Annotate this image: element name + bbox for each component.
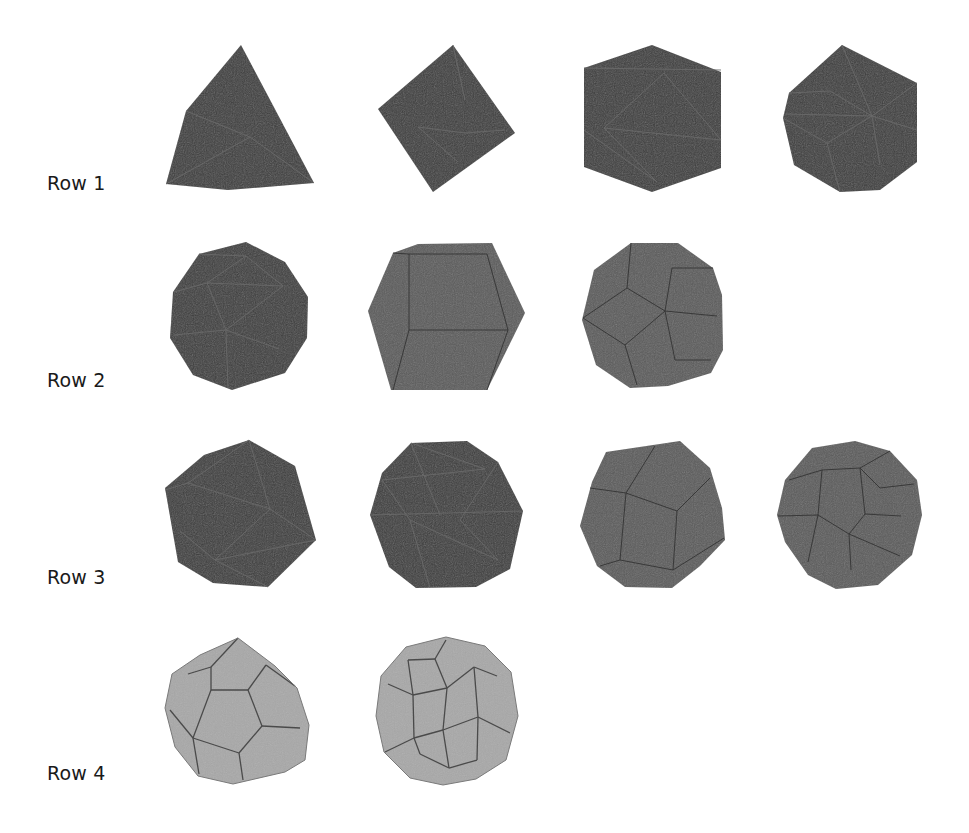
shape-silhouette — [582, 243, 723, 388]
polyhedra-grid — [0, 0, 969, 833]
cube-shape — [378, 45, 515, 192]
shape-silhouette — [166, 45, 314, 190]
icosahedron-shape — [783, 45, 917, 192]
row-4-shapes — [165, 637, 518, 785]
shape-silhouette — [777, 441, 922, 589]
snub-tetrahedron-like-shape — [165, 440, 316, 587]
row-3-shapes — [165, 440, 922, 589]
shape-silhouette — [376, 637, 518, 785]
icosidodecahedron-like-shape — [170, 242, 308, 390]
shape-silhouette — [165, 440, 316, 587]
shape-silhouette — [783, 45, 917, 192]
dodecahedron-shape — [165, 638, 309, 784]
row-2-shapes — [170, 242, 723, 390]
row-1-shapes — [166, 45, 917, 192]
shape-silhouette — [584, 45, 721, 192]
pentagonal-icositetrahedron-shape — [582, 243, 723, 388]
shape-silhouette — [378, 45, 515, 192]
truncated-icosahedron-shape — [376, 637, 518, 785]
octahedron-shape — [584, 45, 721, 192]
shape-silhouette — [368, 243, 525, 390]
deltoidal-hexecontahedron-like-shape — [777, 441, 922, 589]
shape-silhouette — [170, 242, 308, 390]
rhombic-dodecahedron-shape — [368, 243, 525, 390]
deltoidal-icositetrahedron-shape — [580, 441, 725, 588]
tetrahedron-shape — [166, 45, 314, 190]
pentakis-dodecahedron-like-shape — [370, 441, 523, 588]
